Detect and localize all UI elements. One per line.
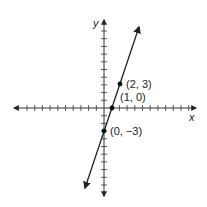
point-2-3: [118, 82, 123, 87]
point-label-0-neg3: (0, −3): [110, 125, 142, 137]
point-0-neg3: [102, 129, 107, 134]
coordinate-plane: x y (2, 3) (1, 0) (0, −3): [0, 0, 207, 207]
x-axis-label: x: [188, 111, 195, 123]
point-label-1-0: (1, 0): [120, 91, 146, 103]
y-axis-label: y: [92, 17, 100, 29]
point-1-0: [110, 106, 115, 111]
point-label-2-3: (2, 3): [126, 78, 152, 90]
